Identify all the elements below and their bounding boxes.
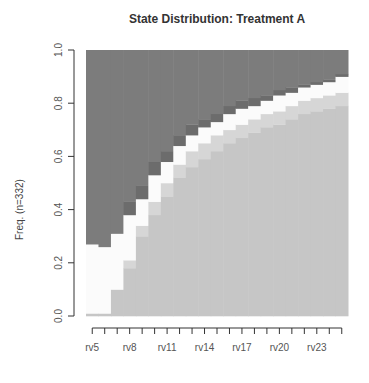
bar-segment-state5 [336, 50, 349, 74]
bar-segment-state5 [236, 50, 249, 101]
bar-segment-state2 [223, 130, 236, 144]
bar-segment-state4 [148, 162, 161, 176]
bar-segment-state1 [286, 119, 299, 316]
bar-segment-state5 [223, 50, 236, 106]
bar-segment-state2 [211, 135, 224, 151]
bar-segment-state1 [136, 236, 149, 316]
bar-segment-state3 [123, 215, 136, 261]
y-tick-label: 0.8 [53, 96, 64, 110]
bar-segment-state5 [123, 50, 136, 202]
bar-segment-state4 [248, 98, 261, 106]
x-tick-label: rv11 [158, 342, 177, 353]
bar-segment-state2 [161, 183, 174, 197]
bar-segment-state5 [248, 50, 261, 98]
bar-segment-state3 [186, 135, 199, 151]
bar-segment-state1 [86, 313, 99, 316]
bar-segment-state3 [311, 85, 324, 99]
bar-segment-state1 [311, 111, 324, 316]
bar-segment-state5 [148, 50, 161, 162]
bar-segment-state3 [211, 122, 224, 136]
bar-segment-state2 [311, 98, 324, 112]
bar-segment-state1 [173, 178, 186, 317]
bar-segment-state2 [248, 119, 261, 133]
x-tick-label: rv20 [270, 342, 290, 353]
bar-segment-state2 [123, 260, 136, 268]
bar-segment-state4 [136, 186, 149, 200]
bar-segment-state2 [136, 226, 149, 237]
bar-segment-state1 [186, 167, 199, 316]
y-axis: 0.00.20.40.60.81.0 [53, 43, 74, 323]
bar-segment-state5 [186, 50, 199, 125]
bar-segment-state5 [173, 50, 186, 135]
bar-segment-state3 [223, 114, 236, 130]
bar-segment-state4 [186, 124, 199, 135]
bar-segment-state3 [336, 77, 349, 93]
bar-segment-state4 [311, 82, 324, 85]
bar-segment-state3 [161, 162, 174, 184]
bar-segment-state5 [298, 50, 311, 85]
bar-segment-state2 [186, 151, 199, 167]
bar-segment-state5 [161, 50, 174, 151]
bar-segment-state1 [273, 124, 286, 316]
bar-segment-state4 [323, 79, 336, 82]
bar-segment-state5 [86, 50, 99, 244]
bar-segment-state4 [336, 74, 349, 77]
bar-segment-state2 [148, 202, 161, 216]
bar-segment-state5 [111, 50, 124, 234]
bar-segment-state3 [323, 82, 336, 96]
bar-segment-state5 [311, 50, 324, 82]
bar-segment-state4 [273, 90, 286, 96]
bar-segment-state5 [323, 50, 336, 80]
bar-segment-state4 [123, 202, 136, 216]
bar-segment-state3 [236, 109, 249, 125]
bar-segment-state1 [323, 109, 336, 317]
bar-segment-state1 [336, 106, 349, 316]
bar-segment-state1 [111, 289, 124, 316]
bar-segment-state3 [273, 95, 286, 111]
bar-segment-state4 [173, 135, 186, 146]
y-tick-label: 1.0 [53, 43, 64, 57]
bar-segment-state1 [198, 159, 211, 316]
bar-segment-state1 [298, 114, 311, 316]
bar-segment-state3 [111, 234, 124, 290]
bar-segment-state3 [136, 199, 149, 226]
bar-segment-state2 [236, 124, 249, 138]
bar-segment-state5 [198, 50, 211, 119]
bar-segment-state5 [98, 50, 111, 247]
bar-segment-state5 [211, 50, 224, 114]
bar-segment-state1 [211, 151, 224, 316]
bar-segment-state4 [198, 119, 211, 127]
bar-segment-state2 [298, 101, 311, 115]
bar-segment-state1 [236, 138, 249, 317]
bar-segment-state2 [336, 93, 349, 107]
bar-segment-state1 [248, 132, 261, 316]
bar-segment-state2 [286, 106, 299, 120]
bar-segment-state1 [148, 215, 161, 316]
y-tick-label: 0.2 [53, 255, 64, 269]
y-tick-label: 0.4 [53, 202, 64, 216]
bar-segment-state5 [136, 50, 149, 186]
bar-segment-state3 [173, 146, 186, 165]
bar-segment-state4 [286, 87, 299, 93]
bar-segment-state3 [198, 127, 211, 143]
bar-segment-state3 [261, 101, 274, 115]
x-tick-label: rv8 [123, 342, 137, 353]
x-tick-label: rv17 [232, 342, 252, 353]
bar-segment-state4 [261, 95, 274, 101]
bar-segment-state3 [86, 244, 99, 313]
y-tick-label: 0.0 [53, 309, 64, 323]
bar-segment-state4 [298, 85, 311, 88]
bar-segment-state1 [223, 143, 236, 316]
bar-segment-state4 [211, 114, 224, 122]
bar-segment-state1 [98, 313, 111, 316]
stacked-bars [86, 50, 349, 316]
x-tick-label: rv14 [195, 342, 215, 353]
y-tick-label: 0.6 [53, 149, 64, 163]
bar-segment-state5 [286, 50, 299, 88]
state-distribution-chart: 0.00.20.40.60.81.0 rv5rv8rv11rv14rv17rv2… [0, 0, 369, 383]
bar-segment-state3 [298, 87, 311, 101]
bar-segment-state2 [198, 143, 211, 159]
bar-segment-state2 [173, 164, 186, 178]
bar-segment-state3 [148, 175, 161, 202]
bar-segment-state4 [161, 151, 174, 162]
